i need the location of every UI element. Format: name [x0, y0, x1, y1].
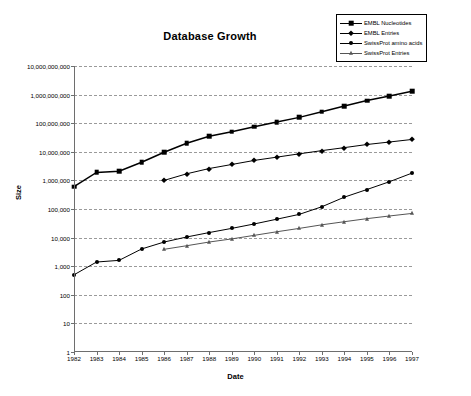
legend-marker-icon — [340, 48, 362, 58]
y-tick-label: 10,000,000,000 — [27, 63, 70, 70]
plot-area — [74, 66, 412, 352]
x-tick-mark — [254, 352, 255, 355]
legend-item[interactable]: SwissProt amino acids — [340, 38, 422, 48]
x-tick-mark — [389, 352, 390, 355]
x-tick-label: 1996 — [383, 355, 397, 362]
y-axis-tick-labels: 10,000,000,0001,000,000,000100,000,00010… — [0, 66, 70, 352]
x-tick-label: 1995 — [360, 355, 374, 362]
x-tick-mark — [412, 352, 413, 355]
x-tick-label: 1987 — [180, 355, 194, 362]
x-axis-title: Date — [0, 372, 471, 381]
plot-frame — [74, 66, 412, 352]
x-tick-mark — [74, 352, 75, 355]
x-tick-mark — [367, 352, 368, 355]
x-tick-label: 1990 — [247, 355, 261, 362]
legend-item[interactable]: EMBL Nucleotides — [340, 18, 422, 28]
y-tick-label: 10 — [63, 320, 70, 327]
x-tick-label: 1992 — [292, 355, 306, 362]
x-tick-label: 1986 — [157, 355, 171, 362]
y-tick-label: 10,000,000 — [39, 148, 70, 155]
legend-label: EMBL Entries — [364, 30, 399, 36]
x-tick-mark — [299, 352, 300, 355]
x-tick-mark — [164, 352, 165, 355]
x-tick-mark — [277, 352, 278, 355]
x-tick-mark — [322, 352, 323, 355]
legend-item[interactable]: SwissProt Entries — [340, 48, 422, 58]
x-tick-label: 1991 — [270, 355, 284, 362]
x-tick-label: 1993 — [315, 355, 329, 362]
y-tick-label: 1,000,000,000 — [30, 91, 70, 98]
legend-label: EMBL Nucleotides — [364, 20, 411, 26]
x-tick-mark — [232, 352, 233, 355]
x-tick-label: 1989 — [225, 355, 239, 362]
x-tick-label: 1982 — [67, 355, 81, 362]
x-tick-mark — [344, 352, 345, 355]
x-tick-label: 1983 — [90, 355, 104, 362]
x-axis-tick-labels: 1982198319841985198619871988198919901991… — [74, 355, 412, 369]
legend-label: SwissProt Entries — [364, 50, 409, 56]
y-tick-label: 1,000,000 — [42, 177, 70, 184]
legend-label: SwissProt amino acids — [364, 40, 422, 46]
x-tick-mark — [142, 352, 143, 355]
x-tick-label: 1988 — [202, 355, 216, 362]
legend-marker-icon — [340, 18, 362, 28]
y-tick-label: 100 — [60, 291, 70, 298]
y-tick-label: 100,000,000 — [36, 120, 70, 127]
x-tick-mark — [209, 352, 210, 355]
y-tick-label: 1,000 — [55, 263, 70, 270]
x-tick-mark — [187, 352, 188, 355]
x-tick-label: 1994 — [338, 355, 352, 362]
x-tick-mark — [119, 352, 120, 355]
y-tick-label: 100,000 — [48, 206, 70, 213]
legend: EMBL NucleotidesEMBL EntriesSwissProt am… — [336, 14, 427, 62]
x-tick-label: 1997 — [405, 355, 419, 362]
y-tick-label: 10,000 — [51, 234, 70, 241]
legend-item[interactable]: EMBL Entries — [340, 28, 422, 38]
chart-container: Database Growth Size Date 10,000,000,000… — [0, 0, 471, 396]
x-tick-mark — [97, 352, 98, 355]
x-tick-label: 1984 — [112, 355, 126, 362]
legend-marker-icon — [340, 28, 362, 38]
x-tick-label: 1985 — [135, 355, 149, 362]
legend-marker-icon — [340, 38, 362, 48]
